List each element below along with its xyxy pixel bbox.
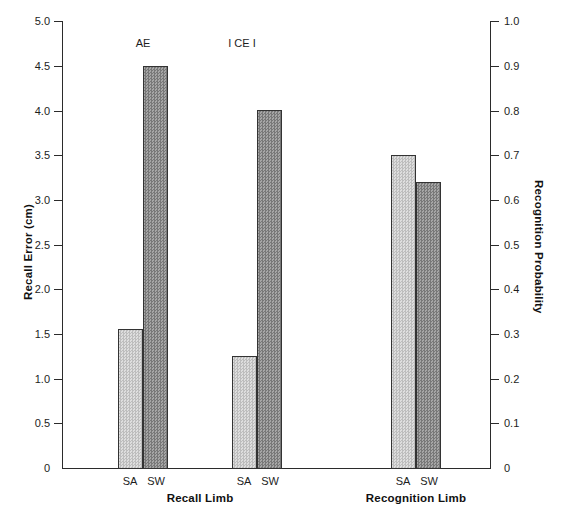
left-axis-tick <box>54 200 63 201</box>
right-axis-tick <box>490 111 499 112</box>
left-tick-label: 0 <box>8 463 50 474</box>
bar-group2-sw <box>257 110 282 469</box>
group-label-recall-limb: Recall Limb <box>140 492 260 504</box>
left-axis-tick <box>54 245 63 246</box>
right-tick-label: 0.5 <box>504 240 519 251</box>
left-tick-label: 1.0 <box>8 374 50 385</box>
left-axis-tick <box>54 423 63 424</box>
left-axis-tick <box>54 66 63 67</box>
right-tick-label: 1.0 <box>504 16 519 27</box>
right-axis-tick <box>490 245 499 246</box>
right-tick-label: 0 <box>504 463 510 474</box>
right-axis-tick <box>490 423 499 424</box>
x-label-group1-sw: SW <box>136 476 176 487</box>
right-tick-label: 0.7 <box>504 150 519 161</box>
bar-group2-sa <box>232 356 257 469</box>
bar-chart-figure: 5.0 4.5 4.0 3.5 3.0 2.5 2.0 1.5 1.0 0.5 … <box>0 0 563 512</box>
right-tick-label: 0.6 <box>504 195 519 206</box>
left-axis-title: Recall Error (cm) <box>22 204 34 300</box>
right-axis-tick <box>490 200 499 201</box>
left-tick-label: 3.5 <box>8 150 50 161</box>
left-axis-tick <box>54 21 63 22</box>
right-tick-label: 0.8 <box>504 106 519 117</box>
right-tick-label: 0.2 <box>504 374 519 385</box>
left-tick-label: 1.5 <box>8 329 50 340</box>
right-axis-tick <box>490 66 499 67</box>
left-axis-tick <box>54 111 63 112</box>
right-axis-tick <box>490 289 499 290</box>
x-label-group3-sw: SW <box>409 476 449 487</box>
measure-label-ce: I CE I <box>207 38 277 49</box>
left-tick-label: 0.5 <box>8 418 50 429</box>
bar-group3-sw <box>416 182 441 469</box>
left-tick-label: 5.0 <box>8 16 50 27</box>
left-tick-label: 4.5 <box>8 61 50 72</box>
left-tick-label: 4.0 <box>8 106 50 117</box>
group-label-recognition-limb: Recognition Limb <box>356 492 476 504</box>
right-axis-title: Recognition Probability <box>533 180 545 314</box>
measure-label-ae: AE <box>113 38 173 49</box>
right-axis-tick <box>490 21 499 22</box>
right-tick-label: 0.4 <box>504 284 519 295</box>
right-tick-label: 0.9 <box>504 61 519 72</box>
bar-group3-sa <box>391 155 416 469</box>
left-axis-tick <box>54 379 63 380</box>
bar-group1-sa <box>118 329 143 469</box>
x-label-group2-sw: SW <box>250 476 290 487</box>
left-axis-tick <box>54 289 63 290</box>
right-tick-label: 0.3 <box>504 329 519 340</box>
right-axis-tick <box>490 155 499 156</box>
left-axis-tick <box>54 334 63 335</box>
right-axis-tick <box>490 379 499 380</box>
left-axis-tick <box>54 155 63 156</box>
right-tick-label: 0.1 <box>504 418 519 429</box>
right-axis-tick <box>490 334 499 335</box>
bar-group1-sw <box>143 66 168 469</box>
